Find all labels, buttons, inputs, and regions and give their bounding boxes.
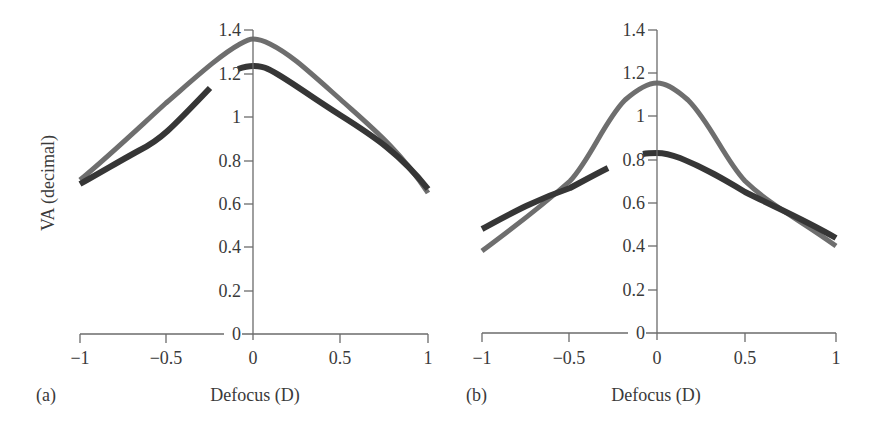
panel-b-ytick-label: 1.2: [623, 63, 646, 83]
panel-a-xtick-label: 0: [249, 348, 258, 368]
panel-a-label: (a): [36, 385, 56, 406]
panel-b-label: (b): [466, 385, 487, 406]
panel-a-dark-curve-right: [238, 66, 428, 189]
panel-a-ytick-label: 0.6: [219, 194, 242, 214]
panel-a-ytick-label: 1: [232, 107, 241, 127]
panel-a-ytick-label: 1.2: [219, 64, 242, 84]
panel-b-light-curve: [482, 83, 836, 251]
panel-a-xtick-label: −1: [70, 348, 89, 368]
panel-b-xtick-label: 0: [653, 348, 662, 368]
panel-b-dark-curve-right: [643, 153, 836, 238]
panel-b-ytick-label: 0.6: [623, 193, 646, 213]
panel-b-x-axis-title: Defocus (D): [611, 385, 700, 406]
panel-b-xtick-label: 1: [832, 348, 841, 368]
panel-b-xtick-label: −1: [472, 348, 491, 368]
panel-a-xtick-label: 1: [424, 348, 433, 368]
panel-a-ytick-label: 0.2: [219, 281, 242, 301]
panel-a-light-curve: [80, 39, 428, 193]
panel-a-x-axis-title: Defocus (D): [210, 385, 299, 406]
panel-b-dark-curve-left: [482, 168, 608, 229]
panel-b-ytick-label: 0: [636, 323, 645, 343]
panel-b-ytick-label: 0.4: [623, 236, 646, 256]
panel-a-ytick-label: 0.4: [219, 237, 242, 257]
panel-b-ytick-label: 1: [636, 106, 645, 126]
panel-a-xtick-label: 0.5: [329, 348, 352, 368]
panel-b-ytick-label: 0.8: [623, 150, 646, 170]
panel-b-ytick-label: 1.4: [623, 20, 646, 40]
figure-canvas: 0 0.2 0.4 0.6 0.8 1 1.2 1.4 −1 −0.5 0 0.…: [0, 0, 873, 428]
panel-a: 0 0.2 0.4 0.6 0.8 1 1.2 1.4 −1 −0.5 0 0.…: [36, 20, 433, 406]
panel-b-xtick-label: −0.5: [553, 348, 586, 368]
panel-b: 0 0.2 0.4 0.6 0.8 1 1.2 1.4 −1 −0.5 0 0.…: [466, 20, 841, 406]
panel-a-ytick-label: 0: [232, 324, 241, 344]
panel-a-ytick-label: 0.8: [219, 151, 242, 171]
y-axis-title: VA (decimal): [38, 135, 59, 231]
panel-a-dark-curve-left: [80, 88, 210, 184]
panel-a-xtick-label: −0.5: [150, 348, 183, 368]
panel-a-ytick-label: 1.4: [219, 20, 242, 40]
panel-b-xtick-label: 0.5: [734, 348, 757, 368]
panel-b-ytick-label: 0.2: [623, 280, 646, 300]
